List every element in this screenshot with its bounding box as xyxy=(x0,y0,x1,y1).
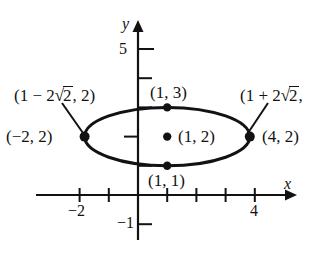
y-axis xyxy=(133,20,144,240)
point-bottom-covertex xyxy=(163,162,171,170)
leader-line-left xyxy=(62,103,83,133)
ellipse-figure: x y 5 −1 −2 4 (1, 3) (1, 2) (1, 1) (−2, … xyxy=(0,0,323,257)
point-label-right-focus: (1 + 2√2, xyxy=(240,86,303,104)
y-tick-label-neg1: −1 xyxy=(117,215,134,231)
point-top-covertex xyxy=(163,103,171,111)
point-label-top: (1, 3) xyxy=(150,84,187,101)
y-axis-label: y xyxy=(122,16,129,32)
right-focus-radicand: 2 xyxy=(289,86,299,104)
point-label-left-focus: (1 − 2√2, 2) xyxy=(14,86,95,104)
point-label-center: (1, 2) xyxy=(178,128,215,145)
x-tick-label-4: 4 xyxy=(250,203,258,219)
point-label-bottom: (1, 1) xyxy=(148,172,185,189)
left-focus-radicand: 2 xyxy=(63,86,73,104)
point-left-vertex xyxy=(80,132,90,142)
point-center xyxy=(163,132,171,140)
right-focus-suffix: , xyxy=(299,86,303,105)
y-tick-label-5: 5 xyxy=(119,41,127,57)
point-right-vertex xyxy=(245,132,255,142)
x-tick-label-neg2: −2 xyxy=(68,203,85,219)
left-focus-radical: √2 xyxy=(55,86,73,104)
x-axis-label: x xyxy=(284,176,291,192)
right-focus-prefix: (1 + 2 xyxy=(240,86,281,105)
point-label-right-vertex: (4, 2) xyxy=(262,128,299,145)
point-label-left-vertex: (−2, 2) xyxy=(6,128,52,145)
right-focus-radical: √2 xyxy=(281,86,299,104)
left-focus-suffix: , 2) xyxy=(73,86,96,105)
left-focus-prefix: (1 − 2 xyxy=(14,86,55,105)
